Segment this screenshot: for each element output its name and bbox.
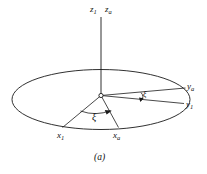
angle-label-xi-y: ξ (143, 91, 146, 99)
axis-label-ya: ya (187, 82, 194, 91)
axis-label-xa: xa (113, 131, 120, 140)
angle-label-xi-x: ξ (92, 112, 96, 122)
origin-point (99, 93, 103, 97)
figure-caption: (a) (94, 153, 105, 163)
figure-container: z1 za ya y1 x1 xa ξ ξ (a) (0, 0, 207, 174)
axis-label-y1: y1 (186, 100, 193, 109)
axis-label-x1: x1 (57, 131, 64, 140)
axis-label-z1: z1 (90, 5, 97, 14)
coordinate-frame-diagram (0, 0, 207, 174)
axis-label-za: za (105, 5, 112, 14)
